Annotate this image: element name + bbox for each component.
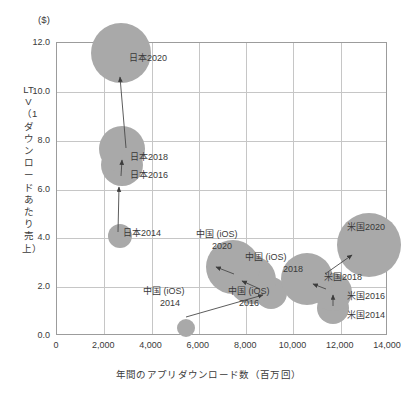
transition-arrow — [118, 187, 119, 232]
data-point-label: 日本2014 — [123, 228, 161, 240]
data-point-label: 中国 (iOS) — [196, 229, 238, 241]
bubble-chart: ($) LTV（1ダウンロードあたり売上） 年間のアプリダウンロード数（百万回）… — [0, 0, 417, 396]
transition-arrow — [121, 160, 122, 176]
data-point-label: 日本2020 — [129, 53, 167, 65]
data-point-label: 2018 — [283, 264, 303, 276]
data-point-label: 米国2018 — [324, 272, 362, 284]
data-point-label: 中国 (iOS) — [228, 286, 270, 298]
transition-arrow — [120, 77, 126, 148]
data-point-label: 米国2014 — [347, 310, 385, 322]
data-point-label: 中国 (iOS) — [143, 286, 185, 298]
data-point-label: 2014 — [160, 298, 180, 310]
data-point-label: 米国2016 — [347, 291, 385, 303]
data-point-label: 中国 (iOS) — [245, 252, 287, 264]
transition-arrows-layer — [0, 0, 417, 396]
data-point-label: 2016 — [239, 298, 259, 310]
data-point-label: 日本2016 — [130, 170, 168, 182]
data-point-label: 2020 — [212, 241, 232, 253]
transition-arrow — [216, 267, 234, 274]
transition-arrow — [313, 284, 326, 289]
data-point-label: 米国2020 — [347, 222, 385, 234]
data-point-label: 日本2018 — [130, 152, 168, 164]
